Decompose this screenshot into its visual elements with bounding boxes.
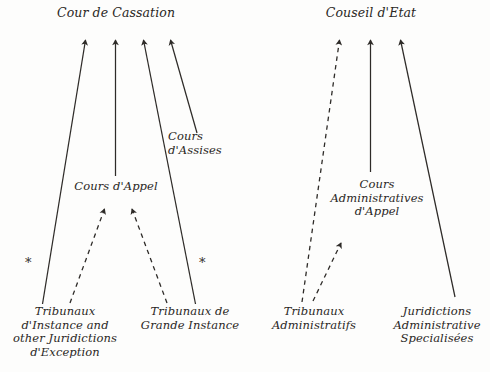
node-juridictions-specialisees: Juridictions Administrative Specialisées: [386, 305, 488, 346]
node-couseil-etat: Couseil d'Etat: [310, 6, 432, 21]
edge-tribunaux-grande-instance-to-cours-appel: [132, 209, 167, 303]
node-cours-administratives-appel: Cours Administratives d'Appel: [325, 178, 429, 219]
node-cour-de-cassation: Cour de Cassation: [46, 6, 186, 21]
edge-tribunaux-grande-instance-to-cour-cassation: [144, 40, 196, 304]
node-cours-assises: Cours d'Assises: [168, 130, 238, 157]
node-cours-appel: Cours d'Appel: [65, 180, 167, 194]
edge-cours-assises-to-cour-cassation: [171, 40, 198, 133]
edge-tribunaux-instance-to-cour-cassation: [43, 40, 86, 304]
edge-tribunaux-administratifs-to-cours-admin-appel: [313, 243, 341, 301]
node-tribunaux-administratifs: Tribunaux Administratifs: [262, 305, 366, 332]
edge-juridictions-specialisees-to-couseil-etat: [401, 40, 456, 297]
footnote-marker-right: *: [199, 256, 206, 269]
footnote-marker-left: *: [25, 256, 32, 269]
node-tribunaux-grande-instance: Tribunaux de Grande Instance: [136, 305, 244, 332]
edge-tribunaux-administratifs-to-couseil-etat: [302, 40, 340, 302]
court-system-diagram: Cour de Cassation Cours d'Assises Cours …: [0, 0, 490, 372]
node-tribunaux-instance: Tribunaux d'Instance and other Juridicti…: [2, 305, 128, 359]
edge-tribunaux-instance-to-cours-appel: [70, 209, 105, 303]
